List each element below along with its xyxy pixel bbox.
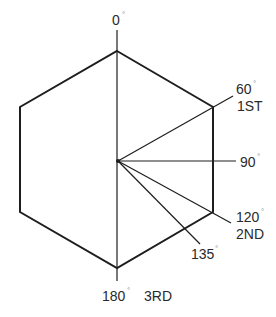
ray-135 (118, 161, 200, 244)
label-135: 135 (191, 246, 215, 262)
degree-symbol-0: ° (122, 10, 125, 19)
label-90: 90 (240, 154, 256, 170)
degree-symbol-180: ° (127, 286, 130, 295)
ray-120 (118, 161, 231, 223)
label-0: 0 (112, 12, 120, 28)
hexagon-angle-diagram: 0 ° 60 ° 1ST 90 ° 120 ° 2ND 135 ° 180 ° … (0, 0, 276, 317)
degree-symbol-120: ° (261, 207, 264, 216)
label-180: 180 (102, 288, 126, 304)
label-120: 120 (236, 209, 260, 225)
degree-symbol-90: ° (257, 152, 260, 161)
label-3rd: 3RD (144, 288, 172, 304)
label-1st: 1ST (237, 98, 263, 114)
degree-symbol-135: ° (215, 244, 218, 253)
ray-60 (118, 96, 233, 161)
degree-symbol-60: ° (253, 79, 256, 88)
label-2nd: 2ND (236, 226, 264, 242)
label-60: 60 (236, 81, 252, 97)
center-point (116, 159, 120, 163)
